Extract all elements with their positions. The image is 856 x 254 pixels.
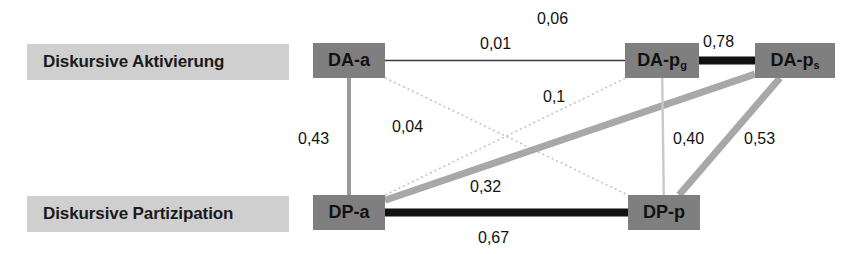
node-da-a[interactable]: DA-a: [313, 43, 385, 78]
node-label: DA-p: [637, 50, 680, 71]
node-label: DA-p: [770, 50, 813, 71]
edge-label-da-a-dp-p: 0,04: [392, 118, 423, 136]
edge-da-pg-dp-p: [662, 78, 664, 195]
node-da-pg[interactable]: DA-pg: [625, 43, 699, 78]
edge-label-da-a-da-pg: 0,01: [480, 35, 511, 53]
edge-label-da-a-da-ps: 0,06: [537, 10, 568, 28]
edge-label-da-ps-dp-p: 0,53: [744, 130, 775, 148]
node-dp-a[interactable]: DP-a: [313, 195, 385, 230]
node-dp-p[interactable]: DP-p: [628, 195, 700, 230]
edge-label-dp-a-da-ps: 0,32: [470, 178, 501, 196]
node-da-ps[interactable]: DA-ps: [755, 43, 835, 78]
edge-label-da-a-dp-a: 0,43: [298, 130, 329, 148]
path-diagram: Diskursive Aktivierung Diskursive Partiz…: [0, 0, 856, 254]
edge-label-da-pg-dp-p: 0,40: [673, 130, 704, 148]
node-label: DP-p: [643, 202, 685, 223]
node-label: DP-a: [328, 202, 369, 223]
node-sublabel: g: [680, 59, 687, 71]
node-label: DA-a: [328, 50, 370, 71]
edge-label-dp-a-da-pg: 0,1: [543, 88, 565, 106]
node-sublabel: s: [813, 59, 819, 71]
edge-label-da-pg-da-ps: 0,78: [703, 33, 734, 51]
edge-label-dp-a-dp-p: 0,67: [478, 229, 509, 247]
